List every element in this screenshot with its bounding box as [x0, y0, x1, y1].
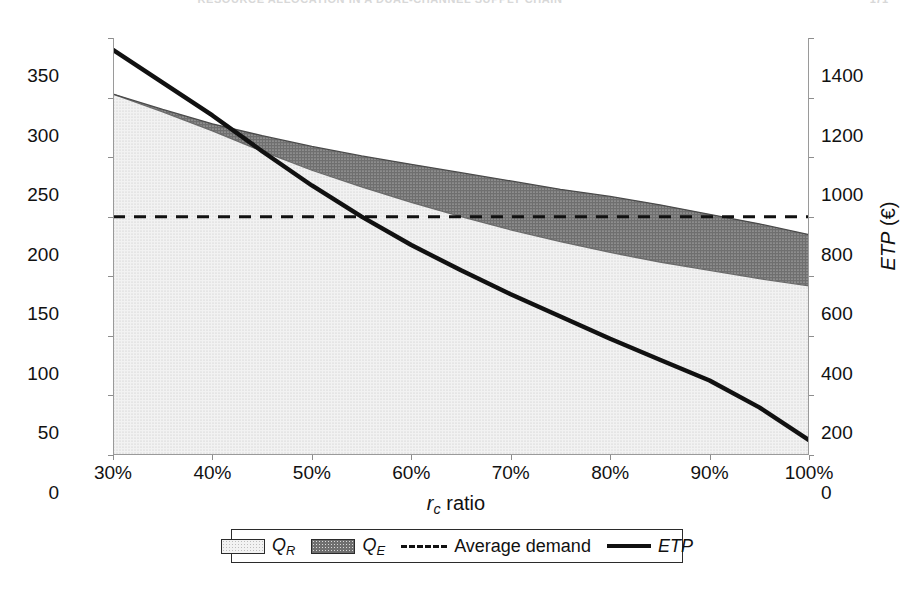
tick-right: [809, 395, 814, 396]
tick-right: [809, 276, 814, 277]
tick-left: [108, 276, 113, 277]
tick-label-right: 0: [821, 482, 832, 504]
legend-label-qe: QE: [362, 535, 385, 558]
tick-right: [809, 336, 814, 337]
tick-label-right: 400: [821, 363, 853, 385]
page-running-header: RESOURCE ALLOCATION IN A DUAL-CHANNEL SU…: [0, 0, 912, 8]
legend-dashed-line-icon: [401, 545, 447, 548]
tick-label-bottom: 60%: [392, 462, 430, 484]
tick-label-left: 350: [27, 65, 59, 87]
y-axis-right-title: ETP (€): [877, 202, 900, 271]
tick-label-right: 600: [821, 303, 853, 325]
tick-left: [108, 217, 113, 218]
tick-bottom: [710, 455, 711, 460]
tick-label-bottom: 50%: [293, 462, 331, 484]
tick-bottom: [312, 455, 313, 460]
tick-label-bottom: 30%: [94, 462, 132, 484]
tick-label-right: 800: [821, 244, 853, 266]
tick-left: [108, 395, 113, 396]
area-qr: [113, 94, 809, 455]
chart-canvas: [113, 38, 809, 455]
tick-right: [809, 217, 814, 218]
legend-swatch-qe-icon: [311, 539, 355, 554]
page-number: 171: [870, 0, 888, 5]
tick-label-right: 200: [821, 422, 853, 444]
tick-label-right: 1200: [821, 125, 863, 147]
tick-left: [108, 336, 113, 337]
tick-right: [809, 98, 814, 99]
axis-line-right: [808, 38, 809, 455]
tick-left: [108, 38, 113, 39]
tick-right: [809, 38, 814, 39]
tick-label-left: 200: [27, 244, 59, 266]
legend-item-qr[interactable]: QR: [221, 535, 295, 558]
tick-label-bottom: 90%: [691, 462, 729, 484]
legend-item-etp[interactable]: ETP: [607, 536, 693, 557]
chart-figure: RESOURCE ALLOCATION IN A DUAL-CHANNEL SU…: [0, 0, 912, 592]
tick-label-bottom: 70%: [492, 462, 530, 484]
legend-label-average-demand: Average demand: [454, 536, 591, 557]
tick-bottom: [610, 455, 611, 460]
tick-right: [809, 157, 814, 158]
tick-label-left: 50: [38, 422, 59, 444]
tick-label-right: 1400: [821, 65, 863, 87]
tick-label-left: 300: [27, 125, 59, 147]
tick-label-bottom: 80%: [591, 462, 629, 484]
legend-solid-line-icon: [607, 544, 651, 548]
tick-left: [108, 157, 113, 158]
tick-label-left: 150: [27, 303, 59, 325]
x-axis-labels: 30%40%50%60%70%80%90%100%: [113, 462, 809, 488]
y-axis-right-labels: 0200400600800100012001400: [821, 38, 822, 455]
tick-label-left: 100: [27, 363, 59, 385]
legend-swatch-qr-icon: [221, 539, 265, 554]
legend-label-qr: QR: [272, 535, 295, 558]
legend-item-qe[interactable]: QE: [311, 535, 385, 558]
tick-bottom: [511, 455, 512, 460]
legend-label-etp: ETP: [658, 536, 693, 557]
running-title: RESOURCE ALLOCATION IN A DUAL-CHANNEL SU…: [0, 0, 760, 5]
tick-bottom: [411, 455, 412, 460]
tick-label-bottom: 40%: [193, 462, 231, 484]
plot-area: [113, 38, 809, 455]
tick-bottom: [113, 455, 114, 460]
tick-left: [108, 98, 113, 99]
y-axis-left-labels: 050100150200250300350: [58, 38, 59, 455]
x-axis-title: rc ratio: [427, 492, 485, 517]
axis-line-left: [113, 38, 114, 455]
tick-bottom: [809, 455, 810, 460]
chart-legend: QR QE Average demand ETP: [231, 529, 683, 563]
tick-label-right: 1000: [821, 184, 863, 206]
axis-line-bottom: [113, 454, 809, 455]
tick-label-bottom: 100%: [785, 462, 834, 484]
tick-bottom: [212, 455, 213, 460]
legend-item-average-demand[interactable]: Average demand: [401, 536, 591, 557]
tick-label-left: 250: [27, 184, 59, 206]
tick-label-left: 0: [48, 482, 59, 504]
